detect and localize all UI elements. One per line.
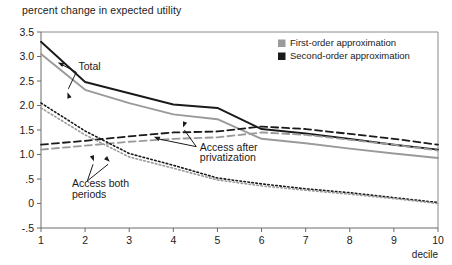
chart-annotation: privatization <box>200 151 256 163</box>
x-tick-label: 8 <box>347 234 353 246</box>
chart-figure: percent change in expected utility 3.53.… <box>0 0 452 265</box>
chart-annotation: periods <box>72 188 106 200</box>
x-tick-label: 6 <box>259 234 265 246</box>
annotation-arrowhead <box>65 92 71 99</box>
annotation-arrowhead <box>104 156 111 163</box>
y-tick-label: 2.0 <box>19 99 34 111</box>
x-tick-label: 5 <box>215 234 221 246</box>
y-tick-label: 2.5 <box>19 75 34 87</box>
y-tick-label: 3.0 <box>19 50 34 62</box>
x-axis-label: decile <box>412 249 439 260</box>
chart-canvas: 3.53.02.52.01.51.0.50-.512345678910decil… <box>0 0 452 265</box>
y-tick-label: 1.5 <box>19 124 34 136</box>
x-tick-label: 4 <box>170 234 176 246</box>
x-tick-label: 1 <box>38 234 44 246</box>
y-tick-label: 3.5 <box>19 26 34 38</box>
y-tick-label: 0 <box>28 197 34 209</box>
legend-label: First-order approximation <box>290 37 396 48</box>
legend-label: Second-order approximation <box>290 50 410 61</box>
legend-swatch <box>278 40 286 48</box>
y-tick-label: 1.0 <box>19 148 34 160</box>
legend-swatch <box>278 53 286 61</box>
annotation-arrowhead <box>181 121 187 128</box>
y-tick-label: -.5 <box>22 222 34 234</box>
annotation-arrowhead <box>90 155 96 162</box>
x-tick-label: 9 <box>391 234 397 246</box>
x-tick-label: 7 <box>303 234 309 246</box>
chart-annotation: Total <box>78 60 100 72</box>
y-tick-label: .5 <box>25 173 34 185</box>
x-tick-label: 3 <box>126 234 132 246</box>
x-tick-label: 10 <box>432 234 444 246</box>
x-tick-label: 2 <box>82 234 88 246</box>
